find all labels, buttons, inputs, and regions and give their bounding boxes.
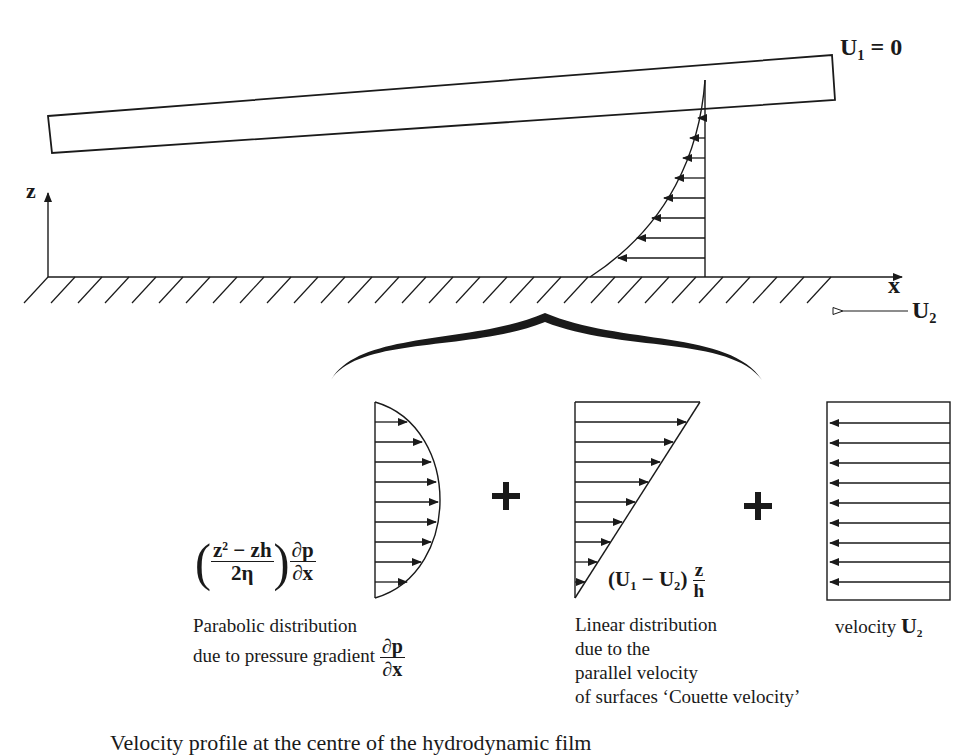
u1-var: U — [840, 34, 857, 60]
grad-num: ∂p — [290, 539, 316, 562]
plus-icon — [744, 492, 772, 520]
gradient-fraction: ∂p∂x — [290, 539, 316, 585]
plus-icon — [492, 482, 520, 510]
uniform-caption-text: velocity — [835, 616, 901, 637]
z-over-h: zh — [693, 560, 705, 602]
u1-label: U1 = 0 — [840, 34, 902, 64]
frac-num: z — [693, 560, 705, 581]
parabolic-caption-line2: due to pressure gradient ∂p∂x — [193, 636, 405, 680]
frac-den: h — [693, 581, 705, 602]
u1-rest: = 0 — [865, 34, 903, 60]
uniform-sub: 2 — [917, 627, 923, 639]
decomposition-brace — [331, 313, 762, 380]
parabolic-caption-line1: Parabolic distribution — [193, 614, 357, 638]
linear-caption-line4: of surfaces ‘Couette velocity’ — [575, 685, 800, 709]
caption-text: due to pressure gradient — [193, 645, 375, 666]
left-paren: ( — [195, 536, 211, 589]
close: ) — [680, 567, 687, 591]
upper-surface — [48, 55, 835, 153]
linear-formula: (U1 − U2) zh — [608, 560, 705, 602]
num-z: z — [213, 538, 222, 562]
open: (U — [608, 567, 630, 591]
formula-fraction: z2 − zh2η — [211, 539, 274, 585]
u2-var: U — [912, 297, 929, 323]
uniform-caption: velocity U2 — [835, 614, 923, 645]
z-axis-label: z — [26, 178, 36, 204]
parabolic-formula: (z2 − zh2η)∂p∂x — [195, 538, 316, 586]
u2-label: U2 — [912, 297, 937, 327]
u2-sub: 2 — [929, 310, 936, 326]
caption-grad-den: ∂x — [380, 658, 405, 680]
right-paren: ) — [274, 536, 290, 589]
uniform-profile — [827, 402, 950, 600]
linear-caption-line3: parallel velocity — [575, 661, 698, 685]
u1-sub: 1 — [857, 47, 864, 63]
den: 2η — [211, 562, 274, 585]
grad-den: ∂x — [290, 562, 316, 585]
caption-gradient: ∂p∂x — [380, 636, 405, 680]
num-rest: − zh — [228, 538, 271, 562]
uniform-var: U — [901, 613, 917, 638]
linear-caption-line1: Linear distribution — [575, 613, 717, 637]
x-axis-label: x — [888, 272, 900, 299]
figure-caption: Velocity profile at the centre of the hy… — [110, 730, 591, 756]
parabolic-profile — [375, 402, 440, 598]
linear-caption-line2: due to the — [575, 637, 650, 661]
lower-surface-hatching — [24, 277, 831, 303]
mid: − U — [636, 567, 674, 591]
caption-grad-num: ∂p — [380, 636, 405, 658]
